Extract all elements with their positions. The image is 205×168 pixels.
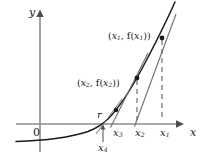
root-label: r bbox=[97, 110, 102, 120]
y-axis-arrow-icon bbox=[36, 10, 43, 18]
tick-label-x1: x1 bbox=[160, 128, 170, 139]
tick-label-x2: x2 bbox=[135, 128, 145, 139]
tick-label-x4: x4 bbox=[98, 143, 108, 154]
point-label-x2: (x2, f(x2)) bbox=[77, 78, 120, 89]
newtons-method-figure: y x 0 (x1, f(x1)) (x2, f(x2)) r x3 x2 x1… bbox=[0, 0, 205, 168]
point-label-x1: (x1, f(x1)) bbox=[108, 31, 151, 42]
x-axis-arrow-icon bbox=[176, 120, 184, 128]
point-marker-x1 bbox=[160, 36, 165, 41]
point-marker-x3 bbox=[114, 108, 118, 112]
tick-label-x3: x3 bbox=[113, 128, 123, 139]
point-marker-x2 bbox=[135, 76, 140, 81]
tangent-line-at-x2 bbox=[111, 53, 149, 128]
origin-label: 0 bbox=[33, 127, 40, 138]
x-axis-label: x bbox=[190, 127, 196, 138]
y-axis-label: y bbox=[29, 7, 35, 18]
x-axis bbox=[16, 120, 184, 128]
